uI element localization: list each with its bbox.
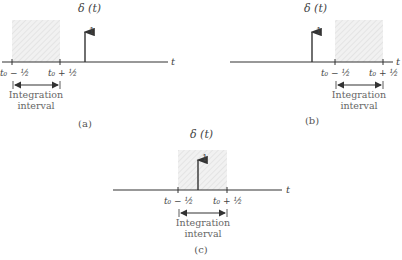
interval-label-line1: Integration xyxy=(9,89,63,100)
integration-region-shade xyxy=(12,20,60,62)
interval-label-line1: Integration xyxy=(332,89,386,100)
panel-caption: (a) xyxy=(78,118,92,129)
panel-b: δ (t) t 1 t₀ − ½ t₀ + ½ Integration inte… xyxy=(230,2,401,126)
tick-label-right: t₀ + ½ xyxy=(369,68,398,78)
impulse-height-label: 1 xyxy=(316,26,322,36)
panel-c: δ (t) t 1 t₀ − ½ t₀ + ½ Integration inte… xyxy=(113,128,291,255)
impulse-height-label: 1 xyxy=(89,26,95,36)
tick-label-left: t₀ − ½ xyxy=(164,196,193,206)
axis-label-t: t xyxy=(396,56,401,67)
panel-caption: (c) xyxy=(194,244,208,255)
interval-label-line2: interval xyxy=(340,100,377,111)
tick-label-left: t₀ − ½ xyxy=(321,68,350,78)
tick-label-right: t₀ + ½ xyxy=(48,68,77,78)
axis-label-t: t xyxy=(286,184,291,195)
tick-label-left: t₀ − ½ xyxy=(0,68,29,78)
tick-label-right: t₀ + ½ xyxy=(213,196,242,206)
delta-title: δ (t) xyxy=(190,128,213,141)
impulse-height-label: 1 xyxy=(202,153,208,163)
integration-region-shade xyxy=(335,20,383,62)
axis-label-t: t xyxy=(171,56,176,67)
delta-title: δ (t) xyxy=(78,2,101,15)
panel-caption: (b) xyxy=(305,115,319,126)
panel-a: δ (t) t 1 t₀ − ½ t₀ + ½ Integration inte… xyxy=(0,2,176,129)
interval-label-line2: interval xyxy=(17,100,54,111)
interval-label-line1: Integration xyxy=(176,217,230,228)
impulse-integration-diagram: δ (t) t 1 t₀ − ½ t₀ + ½ Integration inte… xyxy=(0,0,402,260)
interval-label-line2: interval xyxy=(184,228,221,239)
delta-title: δ (t) xyxy=(304,2,327,15)
